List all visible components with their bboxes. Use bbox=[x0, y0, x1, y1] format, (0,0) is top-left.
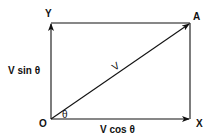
vector-diagram: Y A O X V θ V sin θ V cos θ bbox=[0, 0, 209, 139]
resultant-vector-arrow bbox=[51, 24, 189, 119]
label-a: A bbox=[193, 11, 200, 22]
label-v-cos-theta: V cos θ bbox=[100, 124, 135, 135]
label-theta: θ bbox=[62, 109, 68, 120]
label-o: O bbox=[39, 118, 47, 129]
label-v-sin-theta: V sin θ bbox=[8, 65, 40, 76]
label-vector-v: V bbox=[110, 60, 122, 73]
label-x: X bbox=[196, 118, 203, 129]
label-y: Y bbox=[45, 8, 52, 19]
